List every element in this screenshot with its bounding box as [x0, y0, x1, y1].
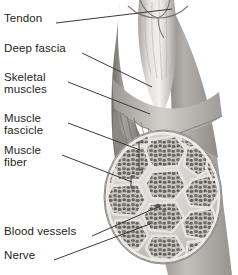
label-muscle-fiber: Muscle fiber [4, 144, 41, 169]
fascicle-bracket [139, 142, 143, 170]
fascicle-leader [68, 123, 140, 150]
label-deep-fascia: Deep fascia [4, 42, 66, 54]
tendon-leader [56, 9, 172, 23]
fiber-leader [62, 155, 132, 182]
label-nerve: Nerve [4, 249, 35, 261]
label-tendon: Tendon [4, 12, 42, 24]
deep-fascia-leader [82, 53, 152, 87]
label-muscle-fascicle: Muscle fascicle [4, 112, 43, 137]
figure-root: Tendon Deep fascia Skeletal muscles Musc… [0, 0, 238, 275]
label-blood-vessels: Blood vessels [4, 225, 76, 237]
blood-vessels-leader [92, 206, 160, 236]
skeletal-leader [68, 82, 150, 114]
label-skeletal-muscles: Skeletal muscles [4, 71, 47, 96]
